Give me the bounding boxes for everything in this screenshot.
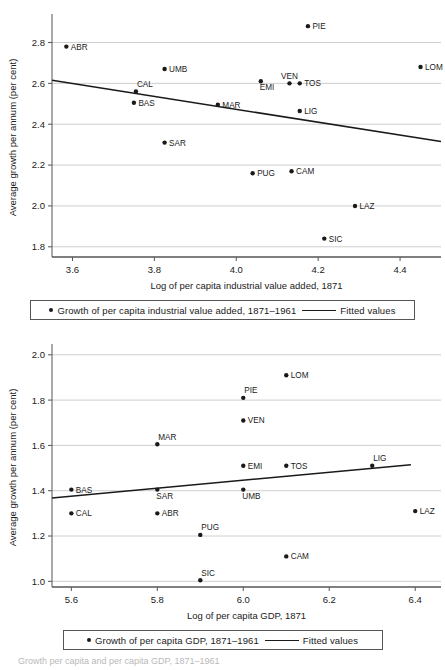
data-point-label-BAS: BAS xyxy=(138,99,155,108)
y-axis-title: Average growth per annum (per cent) xyxy=(7,59,18,217)
data-point-marker-EMI xyxy=(241,464,245,468)
data-point-PIE[interactable]: PIE xyxy=(241,386,258,400)
data-point-marker-ABR xyxy=(64,44,68,48)
data-point-marker-ABR xyxy=(155,511,159,515)
legend-entry-fit: Fitted values xyxy=(302,305,395,316)
figure-gdp: 2.01.81.61.41.21.05.65.86.06.26.4Log of … xyxy=(0,330,445,670)
data-point-label-TOS: TOS xyxy=(304,79,321,88)
x-tick-label-4.0: 4.0 xyxy=(230,264,243,275)
data-point-label-EMI: EMI xyxy=(260,83,275,92)
data-point-marker-SIC xyxy=(322,236,326,240)
data-point-label-ABR: ABR xyxy=(162,509,179,518)
data-point-label-PIE: PIE xyxy=(312,22,326,31)
data-point-marker-BAS xyxy=(69,487,73,491)
data-point-label-BAS: BAS xyxy=(76,486,93,495)
data-point-LIG[interactable]: LIG xyxy=(370,454,386,468)
data-point-label-LAZ: LAZ xyxy=(420,507,435,516)
scatter-plot-industrial-value-added: 2.82.62.42.22.01.83.63.84.04.24.4Log of … xyxy=(0,0,445,300)
data-point-marker-LOM xyxy=(418,65,422,69)
data-point-LIG[interactable]: LIG xyxy=(298,107,318,116)
data-point-CAL[interactable]: CAL xyxy=(69,509,92,518)
legend-line-icon xyxy=(265,640,299,641)
data-point-PUG[interactable]: PUG xyxy=(250,169,274,178)
data-point-marker-TOS xyxy=(298,81,302,85)
data-point-marker-MAR xyxy=(216,103,220,107)
data-point-marker-PIE xyxy=(306,24,310,28)
data-point-marker-VEN xyxy=(241,418,245,422)
data-point-SAR[interactable]: SAR xyxy=(155,487,173,500)
data-point-UMB[interactable]: UMB xyxy=(162,65,187,74)
data-point-MAR[interactable]: MAR xyxy=(155,433,176,447)
data-point-marker-LAZ xyxy=(413,509,417,513)
data-point-EMI[interactable]: EMI xyxy=(259,79,275,92)
y-tick-label-2.0: 2.0 xyxy=(32,200,45,211)
y-axis-title: Average growth per annum (per cent) xyxy=(7,389,18,547)
legend-fit-label: Fitted values xyxy=(340,305,395,316)
data-point-marker-PUG xyxy=(198,533,202,537)
data-point-marker-CAL xyxy=(134,89,138,93)
data-point-label-SAR: SAR xyxy=(169,139,186,148)
data-point-marker-LIG xyxy=(298,109,302,113)
data-point-UMB[interactable]: UMB xyxy=(241,487,261,500)
data-point-label-MAR: MAR xyxy=(222,101,240,110)
y-tick-label-1.4: 1.4 xyxy=(32,485,45,496)
data-point-PUG[interactable]: PUG xyxy=(198,523,219,537)
data-point-marker-PIE xyxy=(241,396,245,400)
x-tick-label-6.4: 6.4 xyxy=(409,594,422,605)
x-tick-label-5.6: 5.6 xyxy=(65,594,78,605)
data-point-label-PIE: PIE xyxy=(244,386,258,395)
data-point-SIC[interactable]: SIC xyxy=(198,569,215,583)
data-point-MAR[interactable]: MAR xyxy=(216,101,241,110)
data-point-BAS[interactable]: BAS xyxy=(69,486,93,495)
figure-caption: Growth per capita and per capita GDP, 18… xyxy=(18,656,438,668)
data-point-label-CAM: CAM xyxy=(291,552,309,561)
y-tick-label-2.4: 2.4 xyxy=(32,119,45,130)
data-point-label-LIG: LIG xyxy=(373,454,386,463)
data-point-label-ABR: ABR xyxy=(71,43,88,52)
y-tick-label-1.6: 1.6 xyxy=(32,440,45,451)
data-point-label-LOM: LOM xyxy=(291,371,309,380)
data-point-VEN[interactable]: VEN xyxy=(241,416,265,425)
legend-marker-dot-icon xyxy=(49,308,53,312)
data-point-marker-LOM xyxy=(284,373,288,377)
legend-industrial-value-added: Growth of per capita industrial value ad… xyxy=(30,300,415,320)
data-point-SAR[interactable]: SAR xyxy=(162,139,186,148)
legend-entry-series: Growth of per capita GDP, 1871–1961 xyxy=(87,635,259,646)
figure-industrial-value-added: 2.82.62.42.22.01.83.63.84.04.24.4Log of … xyxy=(0,0,445,330)
y-tick-label-2.6: 2.6 xyxy=(32,78,45,89)
data-point-LOM[interactable]: LOM xyxy=(284,371,309,380)
data-point-LOM[interactable]: LOM xyxy=(418,63,443,72)
fitted-values-line xyxy=(52,80,441,141)
data-point-LAZ[interactable]: LAZ xyxy=(353,202,375,211)
fitted-values-line xyxy=(52,465,411,498)
y-tick-label-2.2: 2.2 xyxy=(32,159,45,170)
data-point-CAM[interactable]: CAM xyxy=(284,552,309,561)
data-point-marker-CAM xyxy=(284,554,288,558)
data-point-label-SIC: SIC xyxy=(201,569,215,578)
data-point-label-LOM: LOM xyxy=(425,63,443,72)
data-point-label-MAR: MAR xyxy=(158,433,176,442)
data-point-label-UMB: UMB xyxy=(242,492,261,501)
data-point-CAM[interactable]: CAM xyxy=(289,167,314,176)
data-point-ABR[interactable]: ABR xyxy=(64,43,88,52)
legend-entry-fit: Fitted values xyxy=(265,635,358,646)
data-point-ABR[interactable]: ABR xyxy=(155,509,179,518)
data-point-marker-MAR xyxy=(155,442,159,446)
data-point-label-EMI: EMI xyxy=(248,462,263,471)
data-point-marker-LIG xyxy=(370,464,374,468)
data-point-TOS[interactable]: TOS xyxy=(298,79,322,88)
y-tick-label-1.8: 1.8 xyxy=(32,241,45,252)
data-point-label-LAZ: LAZ xyxy=(360,202,375,211)
data-point-SIC[interactable]: SIC xyxy=(322,235,342,244)
data-point-label-SAR: SAR xyxy=(156,492,173,501)
x-axis-title: Log of per capita GDP, 1871 xyxy=(187,610,306,621)
data-point-marker-SAR xyxy=(162,140,166,144)
data-point-TOS[interactable]: TOS xyxy=(284,462,308,471)
data-point-PIE[interactable]: PIE xyxy=(306,22,326,31)
data-point-EMI[interactable]: EMI xyxy=(241,462,262,471)
data-point-CAL[interactable]: CAL xyxy=(134,80,154,94)
data-point-LAZ[interactable]: LAZ xyxy=(413,507,435,516)
data-point-BAS[interactable]: BAS xyxy=(132,99,156,108)
legend-entry-series: Growth of per capita industrial value ad… xyxy=(49,305,296,316)
y-tick-label-1.0: 1.0 xyxy=(32,576,45,587)
